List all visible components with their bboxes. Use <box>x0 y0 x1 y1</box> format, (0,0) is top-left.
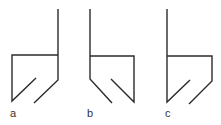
figure-c-label: c <box>165 108 171 119</box>
figure-c <box>167 9 212 104</box>
figure-a-label: a <box>10 108 16 119</box>
figure-a-box-left-and-inner-diagonal <box>12 55 58 101</box>
diagram-canvas <box>0 0 221 125</box>
figure-a <box>12 9 58 103</box>
figure-b-label: b <box>87 108 93 119</box>
figure-b <box>90 9 134 103</box>
figure-b-box-right-and-inner-diagonal <box>90 56 134 102</box>
figure-a-stem-and-right-diagonal <box>34 9 58 103</box>
